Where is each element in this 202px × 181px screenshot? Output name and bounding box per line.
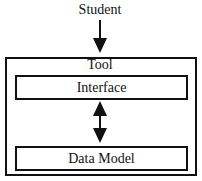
data-model-label: Data Model: [17, 148, 186, 169]
student-to-tool-arrow: [93, 20, 107, 53]
data-model-box: Data Model: [15, 146, 188, 171]
interface-label: Interface: [17, 77, 186, 98]
tool-label: Tool: [60, 57, 140, 73]
interface-box: Interface: [15, 75, 188, 100]
